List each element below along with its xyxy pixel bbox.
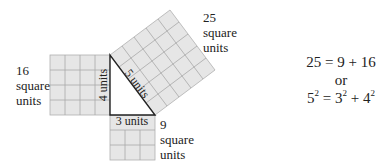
area-word: square [160, 132, 194, 147]
equation: 25 = 9 + 16 or 52 = 32 + 42 [296, 53, 386, 107]
equation-or: or [296, 71, 386, 89]
area-label-9: 9 square units [160, 117, 194, 162]
label-4-units: 4 units [96, 69, 110, 102]
area-word: square [16, 78, 50, 93]
area-label-25: 25 square units [203, 10, 237, 55]
area-unit: units [203, 40, 237, 55]
area-number: 16 [16, 63, 50, 78]
area-label-16: 16 square units [16, 63, 50, 108]
area-number: 25 [203, 10, 237, 25]
equation-line-1: 25 = 9 + 16 [296, 53, 386, 71]
area-number: 9 [160, 117, 194, 132]
area-unit: units [160, 147, 194, 162]
equation-line-3: 52 = 32 + 42 [296, 89, 386, 107]
area-word: square [203, 25, 237, 40]
label-3-units: 3 units [116, 114, 149, 128]
area-unit: units [16, 93, 50, 108]
